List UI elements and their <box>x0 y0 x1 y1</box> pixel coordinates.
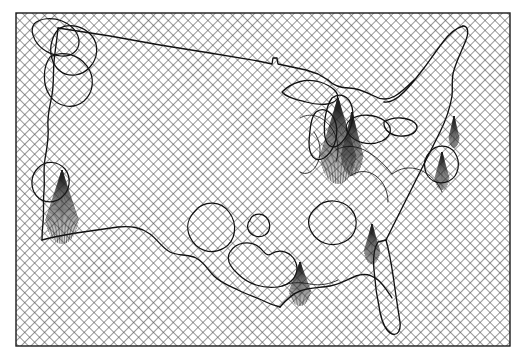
map-figure-container <box>0 0 525 363</box>
united-states-map[interactable] <box>0 0 525 363</box>
